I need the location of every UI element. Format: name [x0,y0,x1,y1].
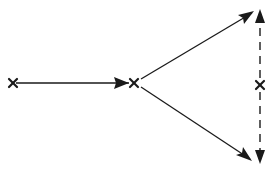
x-marker-left [9,79,17,87]
arrowhead-left-to-middle [114,77,129,89]
arrowhead-up [255,9,265,23]
vector-diagram [0,0,276,172]
arrow-middle-to-upper-right [141,13,252,79]
arrowhead-lower-right [236,147,252,161]
x-marker-middle [130,79,138,87]
arrowhead-upper-right [238,11,254,24]
arrowhead-down [255,150,265,164]
arrow-middle-to-lower-right [141,87,250,159]
x-marker-right [256,81,264,89]
